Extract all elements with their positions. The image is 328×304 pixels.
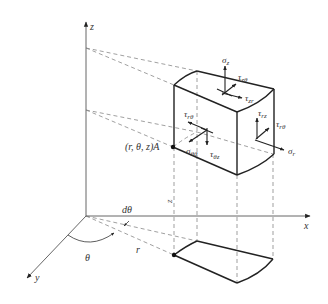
sigma-r-label: σr: [288, 146, 295, 158]
tau-rtheta-right-label: τrθ: [276, 119, 286, 131]
tau-zr-label: τzr: [245, 93, 254, 105]
dtheta-label: dθ: [122, 204, 132, 215]
z-axis-label: z: [89, 21, 94, 32]
stress-block: [173, 71, 274, 175]
tau-rz-label: τrz: [258, 108, 267, 120]
y-axis-label: y: [34, 272, 40, 283]
height-label: z: [164, 199, 174, 204]
radius-label: r: [136, 244, 140, 255]
sigma-z-label: σz: [222, 55, 229, 67]
base-projection: [174, 241, 273, 283]
point-a-projection: [172, 253, 176, 257]
tau-rtheta-left-label: τrθ: [184, 109, 194, 121]
axes: [27, 22, 310, 278]
sigma-theta-label: σθθ: [186, 146, 198, 158]
x-axis-label: x: [303, 220, 309, 231]
stress-element-diagram: z x y (r, θ, z)A θ dθ r z σz τzθ τzr τrz…: [0, 0, 328, 304]
point-a-label: (r, θ, z)A: [125, 141, 160, 153]
tau-ztheta-label: τzθ: [238, 72, 248, 84]
point-a: [171, 145, 175, 149]
y-axis: [27, 216, 86, 278]
angle-arcs: [68, 221, 129, 242]
theta-label: θ: [85, 252, 90, 263]
tau-thetaz-label: τθz: [210, 149, 220, 161]
diagram-svg: z x y (r, θ, z)A θ dθ r z σz τzθ τzr τrz…: [0, 0, 328, 304]
stress-arrows: [188, 66, 284, 150]
